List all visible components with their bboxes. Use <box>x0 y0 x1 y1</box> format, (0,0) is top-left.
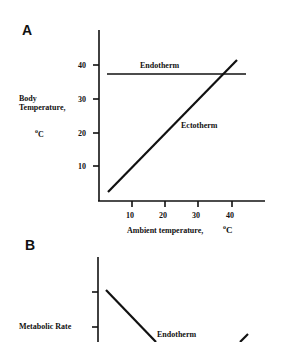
y-axis-unit: oC <box>35 127 44 139</box>
panel-b-label: B <box>25 237 35 253</box>
endotherm-label-b: Endotherm <box>157 330 196 339</box>
endotherm-line-b-left <box>106 290 156 342</box>
endotherm-line-b-right <box>240 334 248 342</box>
x-tick-30: 30 <box>192 211 200 220</box>
endotherm-label-a: Endotherm <box>140 61 179 70</box>
x-tick-10: 10 <box>126 211 134 220</box>
y-tick-10: 10 <box>78 162 86 171</box>
metabolic-rate-label: Metabolic Rate <box>19 322 71 331</box>
x-tick-40: 40 <box>226 211 234 220</box>
x-axis-label: Ambient temperature, <box>127 226 203 235</box>
y-tick-30: 30 <box>78 95 86 104</box>
ectotherm-label-a: Ectotherm <box>181 121 217 130</box>
x-axis-unit: oC <box>223 223 233 235</box>
ectotherm-line-a <box>108 60 237 192</box>
y-axis-label-line2: Temperature, <box>19 103 65 112</box>
chart-lines <box>0 0 283 342</box>
x-tick-20: 20 <box>159 211 167 220</box>
y-axis-label-line1: Body <box>19 94 37 103</box>
y-tick-40: 40 <box>78 61 86 70</box>
panel-b-axes <box>92 257 98 342</box>
y-tick-20: 20 <box>78 129 86 138</box>
